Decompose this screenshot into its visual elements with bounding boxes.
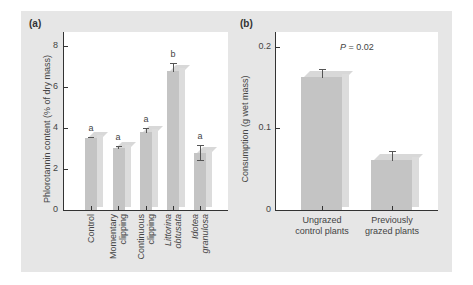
p-value-annotation: P = 0.02 xyxy=(340,42,374,52)
error-bar xyxy=(197,145,204,146)
significance-letter: a xyxy=(138,114,154,124)
y-tick-a xyxy=(64,46,68,47)
y-tick-a xyxy=(64,128,68,129)
y-tick-label-b: 0 xyxy=(247,204,271,214)
significance-letter: a xyxy=(110,132,126,142)
error-bar xyxy=(197,160,204,161)
error-bar xyxy=(322,69,323,78)
x-axis-a xyxy=(63,210,228,211)
x-tick-a xyxy=(146,206,147,210)
y-tick-label-a: 0 xyxy=(34,204,58,214)
bar-littorina-obtusata[interactable] xyxy=(167,71,179,210)
x-axis-b xyxy=(275,210,438,211)
y-tick-label-a: 2 xyxy=(34,163,58,173)
significance-letter: a xyxy=(83,123,99,133)
bar-continuous-clipping[interactable] xyxy=(140,132,152,210)
significance-letter: a xyxy=(192,131,208,141)
x-tick-b xyxy=(322,206,323,210)
y-axis-b xyxy=(275,32,276,211)
x-label-idotea-granulosa: Idotea granulosa xyxy=(190,214,210,254)
bar-depth-side xyxy=(125,145,131,207)
bar-depth-side xyxy=(412,157,419,207)
x-label-control: Control xyxy=(86,214,96,258)
y-tick-b xyxy=(276,128,280,129)
error-bar xyxy=(319,69,326,70)
error-bar xyxy=(88,137,94,138)
y-tick-b xyxy=(276,210,280,211)
x-label-previously-grazed: Previously grazed plants xyxy=(352,215,432,237)
bar-depth-side xyxy=(152,129,158,207)
x-tick-a xyxy=(200,206,201,210)
y-tick-label-a: 8 xyxy=(34,40,58,50)
bar-control[interactable] xyxy=(85,138,97,210)
error-bar xyxy=(392,151,393,161)
bar-previously-grazed[interactable] xyxy=(371,160,412,210)
y-tick-label-b: 0.1 xyxy=(247,122,271,132)
y-tick-b xyxy=(276,47,280,48)
x-label-ungrazed-control: Ungrazed control plants xyxy=(282,215,362,237)
bar-idotea-granulosa[interactable] xyxy=(194,153,206,210)
x-label-momentary-clipping: Momentary clipping xyxy=(108,214,128,260)
bar-depth-side xyxy=(97,135,103,207)
panel-b-label: (b) xyxy=(240,18,253,29)
y-axis-a xyxy=(63,32,64,211)
panel-a-label: (a) xyxy=(29,18,41,29)
x-tick-b xyxy=(392,206,393,210)
error-bar xyxy=(389,151,396,152)
x-tick-a xyxy=(118,206,119,210)
x-label-continuous-clipping: Continuous clipping xyxy=(136,214,156,262)
x-label-littorina-obtusata: Littorina obtusata xyxy=(163,214,183,254)
bar-momentary-clipping[interactable] xyxy=(113,148,125,210)
bar-depth-side xyxy=(179,68,185,207)
bar-depth-side xyxy=(206,150,212,207)
error-bar xyxy=(116,146,122,147)
y-tick-a xyxy=(64,87,68,88)
bar-ungrazed-control[interactable] xyxy=(301,77,342,210)
error-bar xyxy=(173,63,174,72)
significance-letter: b xyxy=(165,49,181,59)
y-tick-a xyxy=(64,210,68,211)
error-bar xyxy=(200,145,201,160)
y-tick-label-a: 6 xyxy=(34,81,58,91)
x-tick-a xyxy=(91,206,92,210)
x-tick-a xyxy=(173,206,174,210)
bar-depth-side xyxy=(342,74,349,207)
y-tick-a xyxy=(64,169,68,170)
y-tick-label-a: 4 xyxy=(34,122,58,132)
error-bar xyxy=(143,128,149,129)
y-tick-label-b: 0.2 xyxy=(247,41,271,51)
error-bar xyxy=(170,63,177,64)
